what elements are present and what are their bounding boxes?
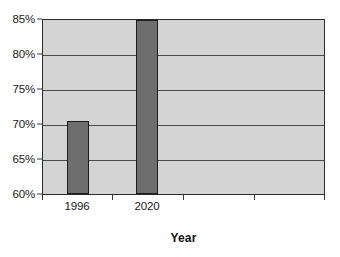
gridline-80	[43, 55, 324, 56]
y-tick-mark-75	[37, 89, 42, 90]
y-axis: 85% 80% 75% 70% 65% 60%	[0, 0, 42, 257]
y-tick-label-75: 75%	[13, 83, 35, 95]
bar-chart: 85% 80% 75% 70% 65% 60% 1996 2020 Year	[0, 0, 340, 257]
y-tick-label-60: 60%	[13, 188, 35, 200]
y-tick-mark-80	[37, 54, 42, 55]
x-tick-label-1996: 1996	[65, 200, 90, 212]
x-axis-labels: 1996 2020	[42, 200, 325, 218]
y-tick-label-80: 80%	[13, 48, 35, 60]
y-tick-label-70: 70%	[13, 118, 35, 130]
y-tick-label-85: 85%	[13, 13, 35, 25]
y-tick-mark-70	[37, 124, 42, 125]
bar-1996	[67, 121, 89, 194]
x-tick-label-2020: 2020	[135, 200, 160, 212]
plot-area	[42, 19, 325, 195]
x-axis-title: Year	[42, 231, 325, 245]
y-tick-mark-65	[37, 159, 42, 160]
gridline-75	[43, 90, 324, 91]
y-tick-mark-85	[37, 19, 42, 20]
y-tick-label-65: 65%	[13, 153, 35, 165]
bar-2020	[136, 20, 158, 194]
